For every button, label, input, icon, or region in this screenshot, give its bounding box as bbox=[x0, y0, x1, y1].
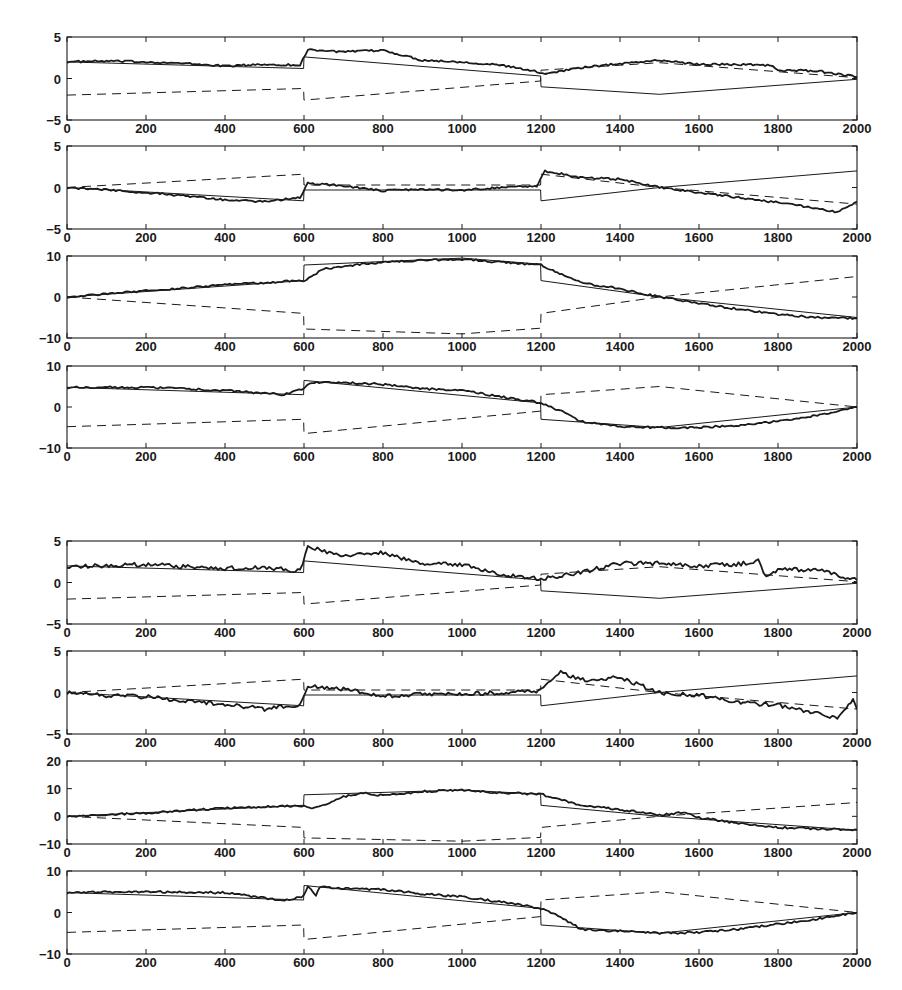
x-tick-label: 1600 bbox=[685, 449, 714, 464]
x-tick-label: 400 bbox=[214, 735, 236, 750]
x-tick-label: 1200 bbox=[527, 339, 556, 354]
x-tick-label: 1000 bbox=[448, 735, 477, 750]
x-tick-label: 200 bbox=[135, 735, 157, 750]
x-tick-label: 200 bbox=[135, 230, 157, 245]
x-tick-label: 1800 bbox=[764, 955, 793, 970]
y-tick-label: −5 bbox=[46, 113, 61, 128]
y-tick-label: 0 bbox=[54, 400, 61, 415]
x-tick-label: 400 bbox=[214, 845, 236, 860]
x-tick-label: 1400 bbox=[606, 449, 635, 464]
y-tick-label: 0 bbox=[54, 906, 61, 921]
plot-area bbox=[67, 380, 857, 433]
x-tick-label: 1800 bbox=[764, 230, 793, 245]
x-tick-label: 1000 bbox=[448, 955, 477, 970]
y-tick-label: 5 bbox=[54, 534, 61, 549]
x-tick-label: 0 bbox=[63, 339, 70, 354]
x-tick-label: 200 bbox=[135, 955, 157, 970]
x-tick-label: 600 bbox=[293, 230, 315, 245]
x-tick-label: 1000 bbox=[448, 230, 477, 245]
x-tick-label: 600 bbox=[293, 735, 315, 750]
x-tick-label: 0 bbox=[63, 845, 70, 860]
x-tick-label: 2000 bbox=[843, 339, 872, 354]
x-tick-label: 2000 bbox=[843, 955, 872, 970]
panel-8: 0200400600800100012001400160018002000−10… bbox=[39, 864, 872, 970]
x-tick-label: 600 bbox=[293, 121, 315, 136]
y-tick-label: 0 bbox=[54, 686, 61, 701]
y-tick-label: −5 bbox=[46, 727, 61, 742]
panel-4: 0200400600800100012001400160018002000−10… bbox=[39, 359, 872, 464]
x-tick-label: 1800 bbox=[764, 121, 793, 136]
x-tick-label: 1800 bbox=[764, 449, 793, 464]
y-tick-label: 10 bbox=[47, 782, 61, 797]
axes-frame bbox=[67, 37, 857, 120]
x-tick-label: 400 bbox=[214, 230, 236, 245]
y-tick-label: 0 bbox=[54, 72, 61, 87]
x-tick-label: 1000 bbox=[448, 625, 477, 640]
x-tick-label: 1200 bbox=[527, 449, 556, 464]
x-tick-label: 1200 bbox=[527, 955, 556, 970]
x-tick-label: 800 bbox=[372, 955, 394, 970]
y-tick-label: −10 bbox=[39, 441, 61, 456]
x-tick-label: 0 bbox=[63, 449, 70, 464]
x-tick-label: 1600 bbox=[685, 339, 714, 354]
x-tick-label: 800 bbox=[372, 735, 394, 750]
x-tick-label: 1200 bbox=[527, 735, 556, 750]
x-tick-label: 1200 bbox=[527, 845, 556, 860]
x-tick-label: 2000 bbox=[843, 230, 872, 245]
x-tick-label: 1400 bbox=[606, 955, 635, 970]
x-tick-label: 200 bbox=[135, 845, 157, 860]
y-tick-label: 0 bbox=[54, 576, 61, 591]
x-tick-label: 1000 bbox=[448, 339, 477, 354]
plot-area bbox=[67, 49, 857, 100]
x-tick-label: 2000 bbox=[843, 625, 872, 640]
x-tick-label: 1400 bbox=[606, 625, 635, 640]
x-tick-label: 0 bbox=[63, 735, 70, 750]
x-tick-label: 800 bbox=[372, 845, 394, 860]
x-tick-label: 1800 bbox=[764, 339, 793, 354]
x-tick-label: 800 bbox=[372, 230, 394, 245]
plot-area bbox=[67, 671, 857, 719]
series-estimate bbox=[67, 382, 857, 429]
x-tick-label: 2000 bbox=[843, 449, 872, 464]
x-tick-label: 800 bbox=[372, 121, 394, 136]
x-tick-label: 1800 bbox=[764, 845, 793, 860]
x-tick-label: 400 bbox=[214, 449, 236, 464]
y-tick-label: 5 bbox=[54, 644, 61, 659]
series-estimate bbox=[67, 49, 857, 77]
axes-frame bbox=[67, 146, 857, 229]
x-tick-label: 1200 bbox=[527, 121, 556, 136]
axes-frame bbox=[67, 256, 857, 338]
x-tick-label: 1400 bbox=[606, 339, 635, 354]
x-tick-label: 2000 bbox=[843, 121, 872, 136]
x-tick-label: 0 bbox=[63, 121, 70, 136]
x-tick-label: 400 bbox=[214, 625, 236, 640]
x-tick-label: 1800 bbox=[764, 735, 793, 750]
series-estimate bbox=[67, 671, 857, 719]
x-tick-label: 400 bbox=[214, 339, 236, 354]
x-tick-label: 1400 bbox=[606, 121, 635, 136]
x-tick-label: 400 bbox=[214, 955, 236, 970]
x-tick-label: 200 bbox=[135, 339, 157, 354]
x-tick-label: 1000 bbox=[448, 845, 477, 860]
x-tick-label: 1200 bbox=[527, 625, 556, 640]
x-tick-label: 600 bbox=[293, 625, 315, 640]
panel-2: 0200400600800100012001400160018002000−50… bbox=[46, 139, 871, 245]
plot-area bbox=[67, 546, 857, 604]
figure: 0200400600800100012001400160018002000−50… bbox=[0, 0, 902, 990]
axes-frame bbox=[67, 761, 857, 844]
panel-7: 0200400600800100012001400160018002000−10… bbox=[39, 754, 872, 860]
axes-frame bbox=[67, 366, 857, 448]
x-tick-label: 400 bbox=[214, 121, 236, 136]
x-tick-label: 600 bbox=[293, 955, 315, 970]
y-tick-label: 5 bbox=[54, 30, 61, 45]
x-tick-label: 1400 bbox=[606, 230, 635, 245]
x-tick-label: 0 bbox=[63, 955, 70, 970]
series-estimate bbox=[67, 789, 857, 830]
x-tick-label: 1000 bbox=[448, 121, 477, 136]
panel-6: 0200400600800100012001400160018002000−50… bbox=[46, 644, 871, 750]
panel-3: 0200400600800100012001400160018002000−10… bbox=[39, 249, 872, 354]
x-tick-label: 1400 bbox=[606, 845, 635, 860]
x-tick-label: 1800 bbox=[764, 625, 793, 640]
x-tick-label: 800 bbox=[372, 339, 394, 354]
x-tick-label: 1600 bbox=[685, 845, 714, 860]
